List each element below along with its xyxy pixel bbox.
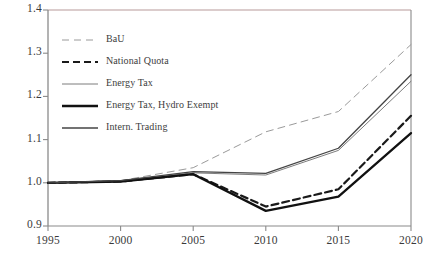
series-line-0 — [48, 45, 411, 183]
y-axis-ticks — [43, 10, 48, 226]
x-tick-label: 2005 — [166, 234, 220, 246]
series-lines — [48, 45, 411, 211]
legend-label-3: Energy Tax, Hydro Exempt — [106, 99, 218, 110]
y-tick-label: 1.3 — [2, 45, 42, 57]
x-tick-label: 2020 — [384, 234, 431, 246]
y-tick-label: 1.0 — [2, 175, 42, 187]
legend-label-4: Intern. Trading — [106, 121, 168, 132]
series-line-4 — [48, 75, 411, 183]
legend-label-2: Energy Tax — [106, 77, 153, 88]
legend-label-0: BaU — [106, 33, 125, 44]
x-tick-label: 2000 — [94, 234, 148, 246]
plot-area — [0, 0, 431, 261]
y-tick-label: 1.1 — [2, 132, 42, 144]
x-tick-label: 2015 — [311, 234, 365, 246]
x-axis-ticks — [48, 226, 411, 231]
legend-swatches — [62, 40, 98, 128]
y-tick-label: 1.4 — [2, 2, 42, 14]
y-tick-label: 0.9 — [2, 218, 42, 230]
y-tick-label: 1.2 — [2, 88, 42, 100]
legend-label-1: National Quota — [106, 55, 169, 66]
line-chart: 0.91.01.11.21.31.4 199520002005201020152… — [0, 0, 431, 261]
x-tick-label: 1995 — [21, 234, 75, 246]
x-tick-label: 2010 — [239, 234, 293, 246]
series-line-2 — [48, 81, 411, 183]
